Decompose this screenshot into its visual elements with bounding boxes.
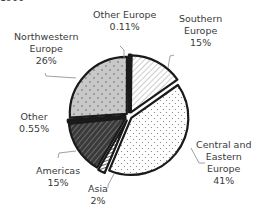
- label-other-europe: Other Europe0.11%: [93, 9, 156, 33]
- label-southern-europe: SouthernEurope15%: [179, 13, 222, 49]
- leader-southern: [168, 55, 174, 68]
- label-central-eastern-europe: Central andEasternEurope41%: [196, 139, 251, 187]
- leader-asia: [108, 174, 114, 188]
- leader-northwestern: [45, 73, 76, 78]
- pie-slice-other-europe: [129, 55, 131, 112]
- label-asia: Asia2%: [88, 183, 108, 207]
- label-americas: Americas15%: [36, 165, 80, 189]
- label-northwestern-europe: NorthwesternEurope26%: [14, 31, 78, 67]
- leader-americas: [58, 151, 76, 158]
- label-other: Other0.55%: [19, 111, 49, 135]
